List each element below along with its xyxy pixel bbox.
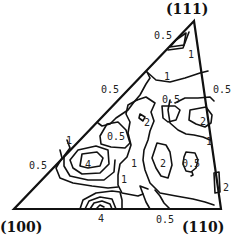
contour-value-label: 4 (98, 213, 104, 224)
contour-lines (56, 32, 220, 209)
inverse-pole-figure: 0.5110.50.50.5220.5110.54120.51240.5 (11… (0, 0, 237, 236)
contour-line (175, 97, 214, 103)
contour-value-label: 2 (160, 158, 166, 169)
pole-label: (100) (0, 219, 42, 235)
contour-value-label: 0.5 (107, 131, 125, 142)
contour-value-label: 0.5 (182, 158, 200, 169)
contour-value-label: 0.5 (154, 30, 172, 41)
pole-label: (111) (166, 1, 208, 17)
contour-value-label: 1 (121, 174, 127, 185)
contour-labels: 0.5110.50.50.5220.5110.54120.51240.5 (29, 30, 231, 225)
contour-value-label: 0.5 (162, 94, 180, 105)
contour-value-label: 2 (144, 117, 150, 128)
contour-line (97, 205, 104, 208)
contour-value-label: 0.5 (101, 84, 119, 95)
contour-value-label: 1 (131, 158, 137, 169)
contour-value-label: 2 (223, 182, 229, 193)
contour-value-label: 0.5 (29, 160, 47, 171)
contour-line (147, 71, 208, 82)
contour-value-label: 0.5 (156, 214, 174, 225)
contour-value-label: 1 (66, 135, 72, 146)
contour-value-label: 2 (200, 116, 206, 127)
contour-value-label: 1 (206, 136, 212, 147)
contour-line (143, 194, 150, 209)
contour-value-label: 1 (188, 49, 194, 60)
contour-value-label: 1 (164, 71, 170, 82)
contour-value-label: 0.5 (213, 84, 231, 95)
contour-line (80, 152, 103, 168)
contour-line (162, 106, 180, 122)
contour-value-label: 4 (85, 159, 91, 170)
pole-label: (110) (182, 219, 224, 235)
